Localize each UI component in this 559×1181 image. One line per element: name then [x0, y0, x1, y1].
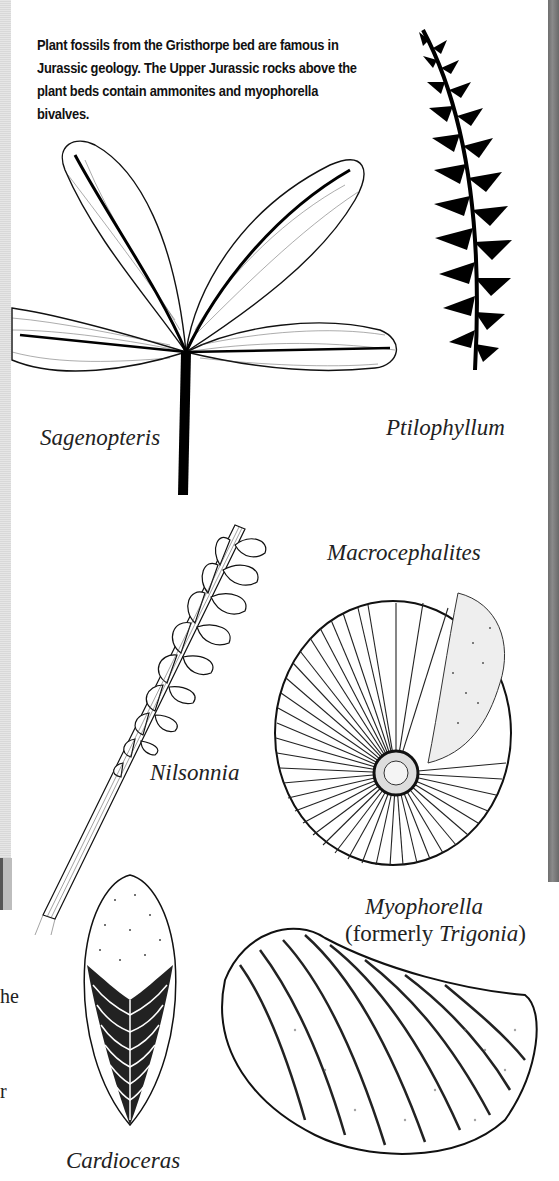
- ptilophyllum-frond-icon: [415, 30, 545, 390]
- bivalve-shell-icon: [205, 920, 545, 1165]
- cut-off-text-fragment: he: [0, 985, 19, 1008]
- caption-cardioceras: Cardioceras: [66, 1148, 180, 1174]
- caption-nilsonnia: Nilsonnia: [150, 760, 239, 786]
- intro-paragraph: Plant fossils from the Gristhorpe bed ar…: [37, 33, 368, 125]
- cut-off-text-fragment: r: [0, 1080, 7, 1103]
- cardioceras-ammonite-icon: [75, 870, 185, 1130]
- caption-sagenopteris: Sagenopteris: [40, 425, 160, 451]
- right-page-edge: [548, 0, 559, 882]
- left-page-panel-edge: [0, 858, 12, 910]
- ammonite-icon: [268, 583, 513, 868]
- caption-macrocephalites: Macrocephalites: [327, 540, 481, 566]
- caption-myophorella-name: Myophorella: [365, 894, 483, 919]
- caption-ptilophyllum: Ptilophyllum: [386, 415, 505, 441]
